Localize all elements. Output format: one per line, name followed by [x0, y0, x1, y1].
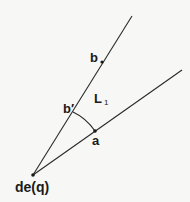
label-a: a	[92, 134, 99, 147]
point-b	[100, 60, 103, 63]
upper-ray	[33, 16, 132, 175]
label-b-prime: b′	[63, 102, 74, 115]
label-L-subscript: 1	[104, 98, 108, 107]
arc-bprime-a	[73, 112, 95, 131]
lower-ray	[33, 70, 182, 175]
label-L: L	[94, 91, 102, 106]
label-apex: de(q)	[15, 180, 49, 194]
apex-point	[31, 173, 35, 177]
diagram-canvas: b b′ L1 a de(q)	[0, 0, 190, 202]
label-b: b	[90, 51, 98, 64]
label-region-L1: L1	[94, 92, 108, 107]
